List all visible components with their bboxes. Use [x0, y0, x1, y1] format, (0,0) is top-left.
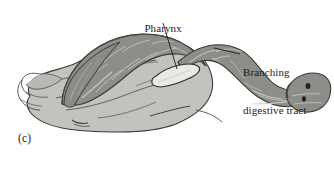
label-branching-line-2: digestive tract [243, 104, 307, 117]
label-pharynx-line-1: Pharynx [144, 22, 181, 34]
label-branching-line-1: Branching [243, 66, 307, 79]
label-branching-digestive-tract: Branching digestive tract [243, 41, 307, 141]
panel-label: (c) [18, 132, 31, 145]
figure-panel-c: Pharynx Branching digestive tract (c) [0, 0, 334, 169]
label-pharynx: Pharynx [133, 9, 182, 47]
